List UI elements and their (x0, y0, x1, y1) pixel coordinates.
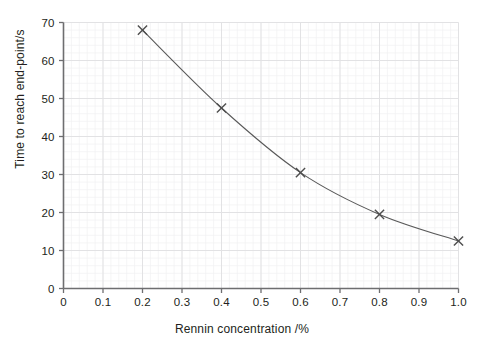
x-tick-label: 0.4 (213, 296, 229, 308)
x-tick-label: 0.9 (411, 296, 427, 308)
x-tick-label: 0.3 (174, 296, 190, 308)
x-tick-label: 0 (60, 296, 67, 308)
x-tick-label: 1.0 (450, 296, 466, 308)
x-tick-label: 0.6 (292, 296, 308, 308)
x-tick-label: 0.2 (134, 296, 150, 308)
y-tick-label: 70 (20, 17, 55, 29)
x-tick-label: 0.8 (371, 296, 387, 308)
x-tick-label: 0.5 (253, 296, 269, 308)
y-tick-label: 10 (20, 245, 55, 257)
y-tick-label: 60 (20, 55, 55, 67)
y-tick-label: 40 (20, 131, 55, 143)
y-tick-label: 0 (20, 283, 55, 295)
y-tick-label: 30 (20, 169, 55, 181)
x-tick-label: 0.1 (95, 296, 111, 308)
y-tick-label: 20 (20, 207, 55, 219)
x-tick-label: 0.7 (332, 296, 348, 308)
chart-figure: Time to reach end-point/s Rennin concent… (0, 0, 484, 350)
y-tick-label: 50 (20, 93, 55, 105)
x-axis-title: Rennin concentration /% (0, 322, 484, 336)
